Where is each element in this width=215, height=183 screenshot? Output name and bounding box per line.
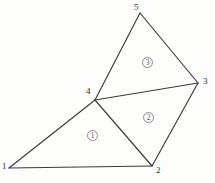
node-label-1: 1 xyxy=(2,162,7,171)
node-label-4: 4 xyxy=(86,87,91,96)
element-label-2: 2 xyxy=(143,112,154,123)
edge-5-3 xyxy=(140,13,198,83)
element-label-1: 1 xyxy=(87,130,98,141)
edge-1-4 xyxy=(9,100,95,168)
node-label-2: 2 xyxy=(156,166,161,175)
edge-1-2 xyxy=(9,166,152,168)
edge-4-3 xyxy=(95,83,198,100)
edge-4-5 xyxy=(95,13,140,100)
element-label-3: 3 xyxy=(142,57,153,68)
node-label-5: 5 xyxy=(134,3,139,12)
node-label-3: 3 xyxy=(203,77,208,86)
edge-2-4 xyxy=(95,100,152,166)
edges-group xyxy=(9,13,198,168)
mesh-diagram: 12345 123 xyxy=(0,0,215,183)
mesh-edges-canvas xyxy=(0,0,215,183)
edge-2-3 xyxy=(152,83,198,166)
